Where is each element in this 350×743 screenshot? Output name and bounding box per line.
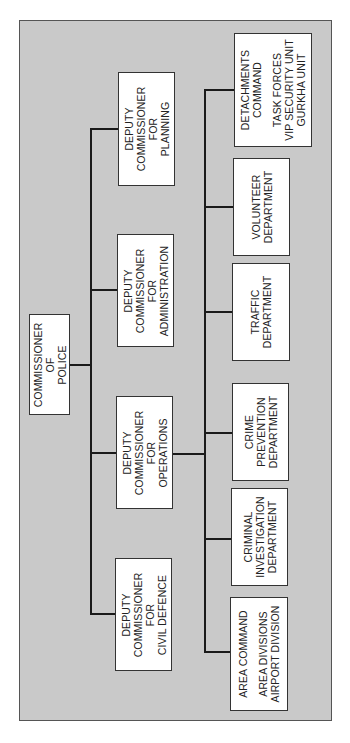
node-sub-label: TASK FORCES [271,39,283,141]
node-volunteer-department: VOLUNTEER DEPARTMENT [233,158,290,256]
node-label: TRAFFIC [249,276,261,348]
node-label: COMMAND [251,39,263,141]
node-label: DEPUTY [121,410,133,495]
connector-detachments [204,89,234,91]
node-label: FOR [147,87,159,172]
node-label: AREA COMMAND [237,606,249,703]
connector-operations [90,452,117,454]
node-sub-label: AIRPORT DIVISION [269,606,281,703]
node-deputy-civil-defence: DEPUTY COMMISSIONER FOR CIVIL DEFENCE [115,558,172,671]
node-label: DETACHMENTS [239,39,251,141]
node-label: ADMINISTRATION [158,245,170,335]
node-label: FOR [146,245,158,335]
node-sub-label: AREA DIVISIONS [257,606,269,703]
connector-planning [90,128,118,130]
node-crime-prevention-department: CRIME PREVENTION DEPARTMENT [232,383,289,481]
node-label: DEPARTMENT [261,276,273,348]
connector-area-command [204,651,230,653]
node-commissioner: COMMISSIONER OF POLICE [29,314,70,415]
node-sub-label: GURKHA UNIT [295,39,307,141]
node-deputy-planning: DEPUTY COMMISSIONER FOR PLANNING [118,72,175,186]
connector-operations-out [173,453,206,455]
node-criminal-investigation-department: CRIMINAL INVESTIGATION DEPARTMENT [231,488,288,586]
node-deputy-operations: DEPUTY COMMISSIONER FOR OPERATIONS [116,396,173,509]
connector-deputies-trunk [90,128,92,615]
node-label: INVESTIGATION [254,496,266,578]
connector-administration [90,289,118,291]
connector-commissioner [70,364,92,366]
node-label: CRIME [243,396,255,468]
node-label: FOR [145,410,157,495]
node-detachments-command: DETACHMENTS COMMAND TASK FORCES VIP SECU… [234,33,312,147]
node-label: CIVIL DEFENCE [156,572,168,657]
node-label: COMMISSIONER [132,572,144,657]
node-label: OPERATIONS [157,410,169,495]
node-label: DEPARTMENT [266,496,278,578]
node-deputy-administration: DEPUTY COMMISSIONER FOR ADMINISTRATION [117,234,174,347]
node-traffic-department: TRAFFIC DEPARTMENT [232,263,290,361]
node-label: DEPUTY [123,87,135,172]
node-label: COMMISSIONER [134,245,146,335]
node-label: DEPARTMENT [262,171,274,243]
node-label: DEPUTY [120,572,132,657]
node-label: VOLUNTEER [250,171,262,243]
connector-traffic [204,311,232,313]
node-label: COMMISSIONER [32,322,44,407]
node-label: CRIMINAL [242,496,254,578]
node-label: DEPARTMENT [267,396,279,468]
node-label: COMMISSIONER [133,410,145,495]
node-sub-label: VIP SECURITY UNIT [283,39,295,141]
connector-criminal-investigation [204,538,231,540]
node-label: POLICE [56,322,68,407]
connector-crime-prevention [204,432,232,434]
connector-civil-defence [90,613,116,615]
connector-volunteer [204,206,233,208]
node-label: PLANNING [159,87,171,172]
node-area-command: AREA COMMAND AREA DIVISIONS AIRPORT DIVI… [230,597,288,711]
node-label: OF [44,322,56,407]
node-label: COMMISSIONER [135,87,147,172]
node-label: PREVENTION [255,396,267,468]
connector-departments-trunk [204,89,206,653]
node-label: FOR [144,572,156,657]
node-label: DEPUTY [122,245,134,335]
